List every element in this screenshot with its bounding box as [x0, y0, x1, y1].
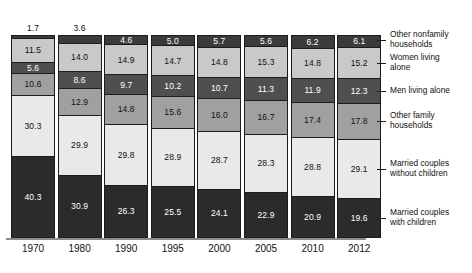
- segment-1970-series3[interactable]: 10.6: [11, 73, 55, 95]
- segment-1970-series5[interactable]: 40.3: [11, 156, 55, 238]
- chart-legend: Other nonfamilyhouseholdsWomen livingalo…: [372, 0, 472, 273]
- segment-1995-series4[interactable]: 28.9: [151, 128, 195, 187]
- segment-1995-series0[interactable]: 5.0: [151, 35, 195, 45]
- segment-value-label: 28.8: [304, 163, 321, 172]
- segment-2005-series1[interactable]: 15.3: [244, 46, 288, 77]
- bar-2010[interactable]: 6.214.811.917.428.820.9: [291, 35, 335, 238]
- bar-1970[interactable]: 1.71.711.55.610.630.340.3: [11, 35, 55, 238]
- segment-1995-series5[interactable]: 25.5: [151, 186, 195, 238]
- segment-1980-series1[interactable]: 14.0: [58, 43, 102, 71]
- segment-1970-series4[interactable]: 30.3: [11, 95, 55, 157]
- legend-label-line2: without children: [390, 169, 472, 179]
- segment-value-label: 28.7: [211, 156, 228, 165]
- bar-2000[interactable]: 5.714.810.716.028.724.1: [197, 35, 241, 238]
- segment-value-label: 29.9: [71, 141, 88, 150]
- segment-value-label: 14.8: [211, 58, 228, 67]
- segment-value-label: 19.6: [351, 214, 368, 223]
- x-tick-label-1970: 1970: [11, 244, 55, 254]
- segment-2005-series5[interactable]: 22.9: [244, 192, 288, 238]
- bar-1995[interactable]: 5.014.710.215.628.925.5: [151, 35, 195, 238]
- segment-1995-series2[interactable]: 10.2: [151, 75, 195, 96]
- segment-1970-series2[interactable]: 5.6: [11, 62, 55, 73]
- segment-2010-series4[interactable]: 28.8: [291, 137, 335, 195]
- segment-1990-series0[interactable]: 4.6: [104, 35, 148, 44]
- legend-item-0[interactable]: Other nonfamilyhouseholds: [390, 30, 472, 49]
- segment-2000-series2[interactable]: 10.7: [197, 77, 241, 99]
- legend-item-4[interactable]: Married coupleswithout children: [390, 159, 472, 178]
- legend-leader-line-3: [377, 121, 386, 122]
- segment-value-label: 29.8: [118, 151, 135, 160]
- legend-label-line2: with children: [390, 218, 472, 228]
- segment-2000-series1[interactable]: 14.8: [197, 47, 241, 77]
- segment-value-label: 10.7: [211, 84, 228, 93]
- x-tick-label-2012: 2012: [337, 244, 381, 254]
- segment-value-label: 29.1: [351, 165, 368, 174]
- segment-value-label: 17.4: [304, 116, 321, 125]
- segment-2010-series3[interactable]: 17.4: [291, 102, 335, 137]
- segment-value-label: 24.1: [211, 209, 228, 218]
- segment-2000-series4[interactable]: 28.7: [197, 131, 241, 189]
- segment-value-label: 16.7: [258, 113, 275, 122]
- bar-1990[interactable]: 4.614.99.714.829.826.3: [104, 35, 148, 238]
- segment-value-label: 9.7: [120, 81, 132, 90]
- stacked-bar-chart: 1.71.711.55.610.630.340.33.63.614.08.612…: [0, 0, 472, 273]
- segment-value-label: 6.2: [307, 38, 319, 47]
- segment-2010-series2[interactable]: 11.9: [291, 78, 335, 102]
- segment-1980-series3[interactable]: 12.9: [58, 88, 102, 114]
- segment-1980-series2[interactable]: 8.6: [58, 71, 102, 88]
- segment-value-label: 40.3: [25, 193, 42, 202]
- segment-1990-series5[interactable]: 26.3: [104, 185, 148, 238]
- legend-item-1[interactable]: Women livingalone: [390, 53, 472, 72]
- segment-1980-series4[interactable]: 29.9: [58, 115, 102, 176]
- segment-2000-series3[interactable]: 16.0: [197, 98, 241, 130]
- segment-value-label: 5.7: [213, 37, 225, 46]
- segment-2010-series5[interactable]: 20.9: [291, 196, 335, 238]
- segment-value-label: 11.9: [304, 86, 320, 95]
- segment-value-label: 5.0: [167, 37, 179, 46]
- segment-2010-series1[interactable]: 14.8: [291, 48, 335, 78]
- segment-value-label: 30.9: [71, 202, 88, 211]
- segment-1990-series2[interactable]: 9.7: [104, 74, 148, 94]
- legend-label-line1: Men living alone: [390, 86, 472, 96]
- segment-1990-series1[interactable]: 14.9: [104, 44, 148, 74]
- segment-value-label: 8.6: [74, 76, 86, 85]
- segment-value-label: 4.6: [120, 36, 132, 45]
- legend-leader-line-1: [377, 63, 386, 64]
- segment-2010-series0[interactable]: 6.2: [291, 35, 335, 48]
- plot-area: 1.71.711.55.610.630.340.33.63.614.08.612…: [0, 0, 372, 273]
- bar-1980[interactable]: 3.63.614.08.612.929.930.9: [58, 35, 102, 238]
- segment-2005-series4[interactable]: 28.3: [244, 134, 288, 191]
- segment-value-label: 10.6: [25, 80, 42, 89]
- segment-2005-series0[interactable]: 5.6: [244, 35, 288, 46]
- segment-1980-series0[interactable]: 3.63.6: [58, 35, 102, 42]
- segment-1980-series5[interactable]: 30.9: [58, 175, 102, 238]
- bar-2005[interactable]: 5.615.311.316.728.322.9: [244, 35, 288, 238]
- segment-2000-series5[interactable]: 24.1: [197, 189, 241, 238]
- legend-item-3[interactable]: Other familyhouseholds: [390, 111, 472, 130]
- segment-2000-series0[interactable]: 5.7: [197, 35, 241, 47]
- x-tick-label-2010: 2010: [291, 244, 335, 254]
- segment-value-label: 22.9: [258, 211, 275, 220]
- segment-2005-series3[interactable]: 16.7: [244, 100, 288, 134]
- segment-value-label: 12.9: [71, 98, 88, 107]
- segment-value-label: 28.3: [258, 159, 275, 168]
- legend-label-line2: households: [390, 40, 472, 50]
- segment-value-label: 15.6: [164, 108, 181, 117]
- segment-value-label: 14.7: [164, 57, 181, 66]
- x-tick-label-1980: 1980: [58, 244, 102, 254]
- segment-value-label: 17.8: [351, 117, 368, 126]
- segment-value-label: 11.3: [258, 85, 274, 94]
- segment-1995-series3[interactable]: 15.6: [151, 96, 195, 128]
- segment-value-label-outside: 3.6: [59, 24, 101, 33]
- segment-1990-series4[interactable]: 29.8: [104, 124, 148, 184]
- segment-1970-series1[interactable]: 11.5: [11, 38, 55, 61]
- segment-value-label: 6.1: [353, 37, 365, 46]
- segment-1995-series1[interactable]: 14.7: [151, 45, 195, 75]
- legend-item-5[interactable]: Married coupleswith children: [390, 208, 472, 227]
- segment-value-label: 14.8: [304, 59, 321, 68]
- segment-value-label: 26.3: [118, 207, 135, 216]
- segment-value-label: 30.3: [25, 122, 42, 131]
- segment-2005-series2[interactable]: 11.3: [244, 77, 288, 100]
- segment-1990-series3[interactable]: 14.8: [104, 94, 148, 124]
- legend-item-2[interactable]: Men living alone: [390, 86, 472, 96]
